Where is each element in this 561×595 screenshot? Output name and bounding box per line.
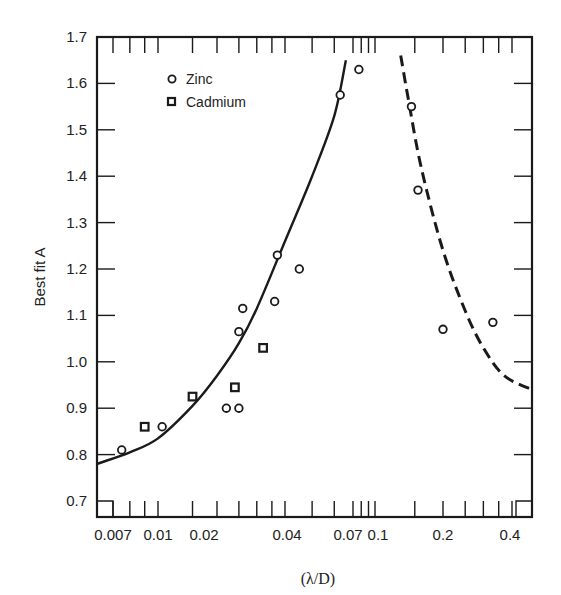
y-tick-label: 1.1	[66, 306, 87, 323]
zinc-point	[274, 251, 282, 259]
zinc-point	[271, 298, 279, 306]
cadmium-point	[259, 344, 267, 352]
fit-curves	[97, 56, 532, 464]
x-tick-label: 0.007	[94, 526, 132, 543]
cadmium-point	[141, 423, 149, 431]
fit-curve-solid	[97, 60, 346, 464]
x-tick-label: 0.07	[333, 526, 362, 543]
zinc-point	[336, 91, 344, 99]
y-tick-label: 1.2	[66, 260, 87, 277]
legend-cadmium-marker-icon	[168, 98, 175, 105]
x-tick-label: 0.1	[368, 526, 389, 543]
cadmium-point	[231, 384, 239, 392]
zinc-point	[296, 265, 304, 273]
y-tick-label: 1.6	[66, 74, 87, 91]
x-tick-label: 0.01	[143, 526, 172, 543]
plot-frame	[97, 37, 532, 517]
corner-mark	[97, 501, 113, 517]
zinc-point	[118, 446, 126, 454]
zinc-point	[239, 305, 247, 313]
cadmium-point	[189, 393, 197, 401]
data-points	[118, 66, 497, 454]
x-tick-label: 0.04	[272, 526, 301, 543]
legend: Zinc Cadmium	[168, 71, 246, 110]
x-axis-label: (λ/D)	[301, 570, 335, 588]
y-tick-label: 0.7	[66, 492, 87, 509]
corner-mark	[516, 501, 532, 517]
legend-zinc-label: Zinc	[186, 71, 212, 87]
zinc-point	[158, 423, 166, 431]
y-tick-label: 1.7	[66, 28, 87, 45]
y-tick-label: 1.3	[66, 214, 87, 231]
zinc-point	[355, 66, 363, 74]
y-tick-label: 0.8	[66, 446, 87, 463]
fit-curve-dashed	[401, 56, 532, 390]
plot-border	[97, 37, 532, 517]
y-tick-label: 1.5	[66, 121, 87, 138]
legend-cadmium-label: Cadmium	[186, 94, 246, 110]
zinc-point	[439, 326, 447, 334]
zinc-point	[235, 328, 243, 336]
y-tick-label: 0.9	[66, 399, 87, 416]
y-tick-labels: 0.70.80.91.01.11.21.31.41.51.61.7	[66, 28, 87, 509]
x-tick-label: 0.2	[433, 526, 454, 543]
legend-zinc-marker-icon	[168, 75, 175, 82]
zinc-point	[235, 404, 243, 412]
zinc-point	[414, 186, 422, 194]
axis-ticks	[97, 37, 532, 517]
zinc-point	[223, 404, 231, 412]
zinc-point	[408, 103, 416, 111]
y-tick-label: 1.0	[66, 353, 87, 370]
zinc-point	[489, 319, 497, 327]
y-tick-label: 1.4	[66, 167, 87, 184]
x-tick-label: 0.4	[500, 526, 521, 543]
x-tick-label: 0.02	[189, 526, 218, 543]
chart: 0.70.80.91.01.11.21.31.41.51.61.7 0.0070…	[0, 0, 561, 595]
y-axis-label: Best fit A	[31, 247, 48, 306]
x-tick-labels: 0.0070.010.020.040.070.10.20.4	[94, 526, 520, 543]
